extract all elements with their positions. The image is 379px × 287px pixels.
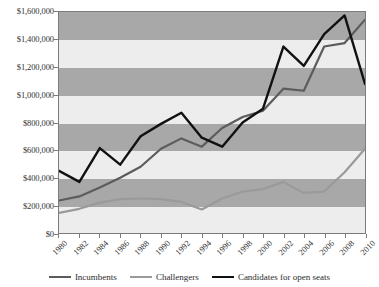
x-tick-label: 1990 [153,238,172,257]
x-tick-label: 1994 [194,238,213,257]
x-tick-label: 1998 [235,238,254,257]
y-tick-label: $600,000 [23,145,54,155]
series-line [59,20,365,201]
legend-line-swatch [130,276,152,278]
x-tick-label: 1992 [173,238,192,257]
x-tick-label: 1996 [214,238,233,257]
legend-item[interactable]: Candidates for open seats [212,272,330,282]
y-tick-label: $1,600,000 [17,6,54,16]
y-axis-labels: $0$200,000$400,000$600,000$800,000$1,000… [0,11,54,234]
y-tick-label: $400,000 [23,173,54,183]
x-tick-label: 1988 [132,238,151,257]
x-tick-label: 1980 [50,238,69,257]
legend-label: Challengers [156,272,199,282]
x-tick-label: 2010 [358,238,377,257]
x-axis-labels: 1980198219841986198819901992199419961998… [58,238,366,268]
legend-item[interactable]: Challengers [130,272,199,282]
chart-legend: IncumbentsChallengersCandidates for open… [0,270,379,284]
series-line [59,149,365,213]
y-tick-label: $1,400,000 [17,34,54,44]
line-chart: $0$200,000$400,000$600,000$800,000$1,000… [0,0,379,287]
x-tick-label: 2002 [276,238,295,257]
x-tick-label: 1984 [91,238,110,257]
series-lines [59,12,365,233]
legend-line-swatch [49,276,71,278]
legend-label: Candidates for open seats [238,272,330,282]
legend-line-swatch [212,276,234,278]
x-tick-label: 2006 [317,238,336,257]
y-tick-label: $1,200,000 [17,62,54,72]
legend-label: Incumbents [75,272,117,282]
y-tick-label: $800,000 [23,118,54,128]
x-tick-label: 2004 [296,238,315,257]
plot-area [58,11,366,234]
y-tick-label: $0 [46,229,54,239]
x-tick-mark [366,234,367,238]
legend-item[interactable]: Incumbents [49,272,117,282]
x-tick-label: 2000 [255,238,274,257]
x-tick-label: 1982 [71,238,90,257]
series-line [59,15,365,181]
x-tick-label: 1986 [112,238,131,257]
y-tick-label: $200,000 [23,201,54,211]
x-tick-label: 2008 [337,238,356,257]
y-tick-label: $1,000,000 [17,90,54,100]
